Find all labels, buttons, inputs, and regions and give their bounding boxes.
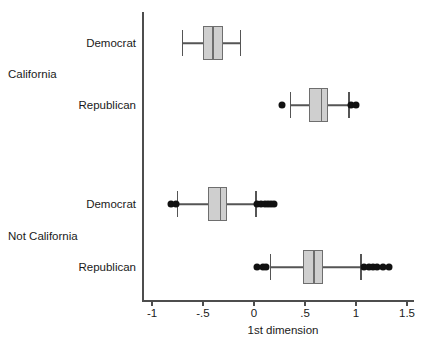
y-axis-category-label: Democrat	[86, 37, 136, 49]
median-line	[212, 26, 214, 60]
y-axis-category-label: Republican	[78, 99, 136, 111]
outlier-dot	[278, 102, 285, 109]
outlier-dot	[173, 201, 180, 208]
x-axis-tick	[304, 301, 306, 306]
whisker-line-low	[291, 104, 309, 106]
whisker-line-low	[183, 42, 203, 44]
x-axis-tick-label: 0	[251, 307, 257, 319]
x-axis-title-wrap: 1st dimension	[0, 324, 432, 336]
outlier-dot	[271, 201, 278, 208]
median-line	[220, 187, 222, 221]
whisker-line-high	[227, 203, 256, 205]
x-axis-tick-label: 1	[353, 307, 359, 319]
whisker-line-high	[323, 266, 361, 268]
y-axis-group-label: Not California	[8, 230, 78, 242]
whisker-cap-low	[290, 92, 292, 118]
outlier-dot	[263, 264, 270, 271]
x-axis-tick-label: 1.5	[399, 307, 415, 319]
x-axis-tick-label: -.5	[196, 307, 209, 319]
x-axis-tick-label: -1	[147, 307, 157, 319]
outlier-dot	[385, 264, 392, 271]
whisker-line-low	[178, 203, 209, 205]
y-axis-group-label: California	[8, 68, 57, 80]
x-axis-tick	[151, 301, 153, 306]
plot-area: -1-.50.511.5 DemocratRepublicanDemocratR…	[0, 0, 432, 343]
whisker-line-high	[223, 42, 240, 44]
x-axis-tick	[355, 301, 357, 306]
x-axis-tick	[253, 301, 255, 306]
whisker-cap-low	[270, 254, 272, 280]
whisker-line-high	[328, 104, 348, 106]
x-axis-title: 1st dimension	[248, 324, 319, 336]
y-axis-category-label: Republican	[78, 261, 136, 273]
x-axis-line	[142, 300, 414, 302]
x-axis-tick	[202, 301, 204, 306]
y-axis-line	[142, 12, 144, 301]
whisker-line-low	[270, 266, 303, 268]
box-rect	[309, 88, 328, 122]
outlier-dot	[353, 102, 360, 109]
box-rect	[208, 187, 227, 221]
whisker-cap-low	[182, 30, 184, 56]
y-axis-category-label: Democrat	[86, 198, 136, 210]
x-axis-tick-label: .5	[300, 307, 310, 319]
median-line	[313, 250, 315, 284]
median-line	[321, 88, 323, 122]
box-plot-figure: -1-.50.511.5 DemocratRepublicanDemocratR…	[0, 0, 432, 343]
x-axis-tick	[406, 301, 408, 306]
whisker-cap-high	[240, 30, 242, 56]
